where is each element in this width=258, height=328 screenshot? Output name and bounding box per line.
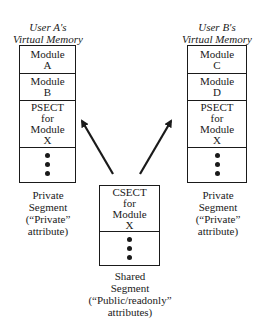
mapping-arrows	[0, 0, 258, 328]
arrow-to-user-a-icon	[82, 121, 113, 174]
arrow-to-user-b-icon	[140, 121, 171, 174]
